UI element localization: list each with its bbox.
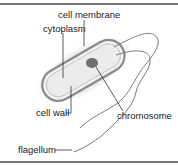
label-cell-wall: cell wall bbox=[36, 108, 69, 118]
capsule bbox=[22, 20, 146, 120]
cell-illustration bbox=[0, 0, 178, 166]
label-cytoplasm: cytoplasm bbox=[43, 24, 86, 34]
chromosome-shape bbox=[86, 58, 98, 68]
bacterial-cell-diagram: cell membrane cytoplasm cell wall chromo… bbox=[0, 0, 178, 166]
label-flagellum: flagellum bbox=[18, 145, 56, 155]
label-chromosome: chromosome bbox=[117, 111, 172, 121]
label-cell-membrane: cell membrane bbox=[58, 10, 120, 20]
